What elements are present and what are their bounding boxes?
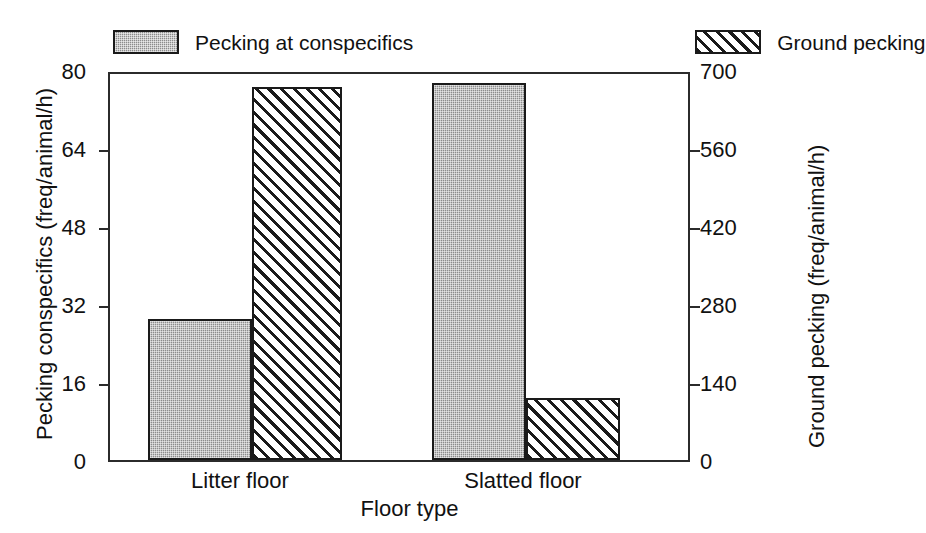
plot-inner [110,74,688,460]
left-axis-tick-16: 16 [62,373,86,395]
right-axis-tick-700: 700 [700,61,737,83]
legend-swatch-hatched-icon [695,30,761,54]
bar-slatted-floor-ground-pecking [526,398,620,460]
right-axis-tick-280: 280 [700,295,737,317]
right-axis-tick-140: 140 [700,373,737,395]
legend-item-pecking-at-conspecifics: Pecking at conspecifics [113,30,413,54]
right-axis-tick-0: 0 [700,451,712,473]
right-axis-tick-420: 420 [700,217,737,239]
right-tick-mark-560 [690,150,700,152]
legend-swatch-solid-gray-icon [113,30,179,54]
right-axis-title: Ground pecking (freq/animal/h) [806,145,828,448]
legend-label-ground-pecking: Ground pecking [777,32,925,53]
left-axis-title: Pecking conspecifics (freq/animal/h) [34,88,56,440]
chart-legend: Pecking at conspecifics Ground pecking [113,28,713,56]
bar-litter-floor-ground-pecking [252,87,342,460]
left-axis-tick-32: 32 [62,295,86,317]
legend-label-pecking-at-conspecifics: Pecking at conspecifics [195,32,413,53]
x-axis-title: Floor type [0,498,819,520]
left-axis-tick-0: 0 [74,451,86,473]
left-axis-tick-48: 48 [62,217,86,239]
left-axis-tick-64: 64 [62,139,86,161]
x-axis-category-slatted-floor: Slatted floor [428,470,618,492]
plot-area [108,72,690,462]
left-axis-tick-80: 80 [62,61,86,83]
right-tick-mark-420 [690,228,700,230]
right-tick-mark-140 [690,384,700,386]
bar-slatted-floor-pecking-at-conspecifics [432,83,526,460]
legend-item-ground-pecking: Ground pecking [695,30,925,54]
x-axis-category-litter-floor: Litter floor [145,470,335,492]
bar-litter-floor-pecking-at-conspecifics [148,319,252,460]
right-tick-mark-280 [690,306,700,308]
right-axis-tick-560: 560 [700,139,737,161]
